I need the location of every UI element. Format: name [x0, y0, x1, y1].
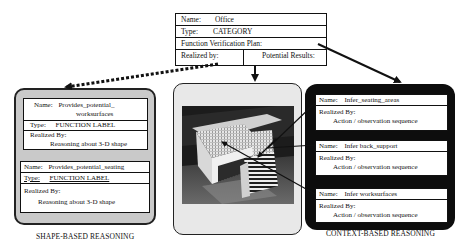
arrow-to-shape-based — [66, 64, 218, 87]
arrow-to-context-based — [318, 44, 400, 82]
arrow-worksurfaces — [222, 142, 315, 194]
arrow-seating-areas — [268, 103, 315, 148]
arrow-back-support — [267, 145, 315, 148]
connector-arrows — [0, 0, 472, 251]
